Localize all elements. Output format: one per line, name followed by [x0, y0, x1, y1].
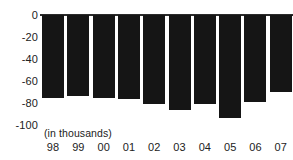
bar: [67, 15, 89, 96]
x-tick-label: 98: [42, 141, 64, 153]
x-tick-label: 00: [93, 141, 115, 153]
x-tick-label: 99: [67, 141, 89, 153]
bar: [270, 15, 292, 92]
y-tick-label: -20: [2, 32, 38, 43]
x-tick-label: 07: [270, 141, 292, 153]
bar: [219, 15, 241, 118]
bar: [118, 15, 140, 99]
x-tick-label: 03: [169, 141, 191, 153]
y-tick-label: 0: [2, 10, 38, 21]
x-tick-label: 02: [143, 141, 165, 153]
y-tick-label: -40: [2, 54, 38, 65]
x-tick-label: 05: [219, 141, 241, 153]
unit-note: (in thousands): [44, 128, 112, 139]
bar-chart: 0-20-40-60-80-100 (in thousands) 9899000…: [0, 0, 293, 160]
bar: [42, 15, 64, 98]
bar: [93, 15, 115, 98]
y-tick-label: -100: [2, 120, 38, 131]
x-axis: 98990001020304050607: [40, 141, 293, 157]
bar: [169, 15, 191, 110]
bar: [143, 15, 165, 104]
y-axis: 0-20-40-60-80-100: [0, 0, 38, 160]
bar: [194, 15, 216, 104]
y-tick-label: -60: [2, 76, 38, 87]
bar: [244, 15, 266, 102]
x-tick-label: 06: [244, 141, 266, 153]
y-tick-label: -80: [2, 98, 38, 109]
x-tick-label: 04: [194, 141, 216, 153]
x-tick-label: 01: [118, 141, 140, 153]
